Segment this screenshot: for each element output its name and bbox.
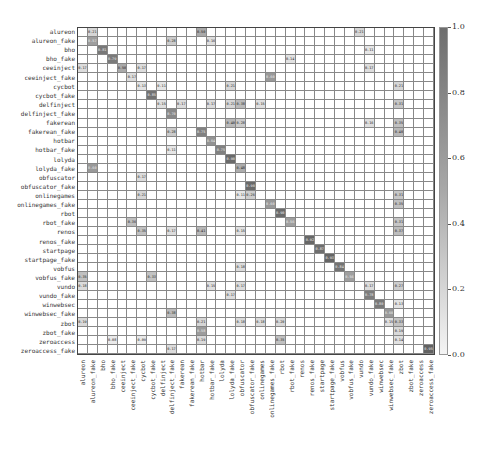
heatmap-cell — [414, 55, 424, 64]
heatmap-cell — [394, 146, 404, 155]
heatmap-cell — [127, 82, 137, 91]
heatmap-cell — [365, 327, 375, 336]
heatmap-cell — [424, 137, 434, 146]
y-tick-label: renos — [57, 227, 75, 236]
y-tick-label: renos_fake — [39, 237, 75, 246]
heatmap-cell — [147, 182, 157, 191]
heatmap-cell — [345, 309, 355, 318]
heatmap-cell — [276, 119, 286, 128]
heatmap-cell — [345, 119, 355, 128]
heatmap-cell — [385, 300, 395, 309]
heatmap-cell — [414, 155, 424, 164]
heatmap-cell — [266, 146, 276, 155]
heatmap-cell — [424, 155, 434, 164]
heatmap-cell — [187, 82, 197, 91]
heatmap-cell — [296, 46, 306, 55]
heatmap-cell — [414, 327, 424, 336]
heatmap-cell — [226, 182, 236, 191]
heatmap-cell — [187, 55, 197, 64]
heatmap-cell — [424, 164, 434, 173]
heatmap-cell — [226, 73, 236, 82]
heatmap-cell — [276, 137, 286, 146]
heatmap-cell — [305, 91, 315, 100]
heatmap-cell — [266, 227, 276, 236]
heatmap-cell — [404, 137, 414, 146]
heatmap-cell — [256, 46, 266, 55]
heatmap-cell — [424, 109, 434, 118]
y-tick-label: lolyda — [53, 155, 75, 164]
heatmap-cell — [118, 254, 128, 263]
heatmap-cell — [246, 254, 256, 263]
heatmap-cell — [345, 182, 355, 191]
heatmap-cell — [246, 345, 256, 354]
heatmap-cell — [187, 37, 197, 46]
heatmap-cell — [127, 55, 137, 64]
heatmap-cell — [424, 91, 434, 100]
heatmap-cell — [296, 55, 306, 64]
heatmap-cell — [167, 155, 177, 164]
heatmap-cell — [286, 146, 296, 155]
heatmap-cell — [296, 173, 306, 182]
heatmap-cell — [98, 282, 108, 291]
heatmap-cell — [197, 345, 207, 354]
heatmap-cell — [207, 146, 217, 155]
heatmap-cell — [197, 146, 207, 155]
heatmap-cell — [197, 218, 207, 227]
y-tick-label: vobfus — [53, 264, 75, 273]
heatmap-cell — [256, 218, 266, 227]
heatmap-cell — [345, 200, 355, 209]
heatmap-cell — [325, 245, 335, 254]
heatmap-cell — [305, 100, 315, 109]
heatmap-cell — [296, 218, 306, 227]
heatmap-cell — [246, 109, 256, 118]
heatmap-cell — [315, 218, 325, 227]
heatmap-cell — [137, 128, 147, 137]
heatmap-cell — [157, 119, 167, 128]
heatmap-cell — [177, 82, 187, 91]
heatmap-cell — [424, 55, 434, 64]
heatmap-cell — [424, 272, 434, 281]
heatmap-cell — [177, 336, 187, 345]
heatmap-cell — [345, 137, 355, 146]
heatmap-cell — [236, 272, 246, 281]
heatmap-cell — [394, 173, 404, 182]
heatmap-cell — [108, 309, 118, 318]
heatmap-cell — [315, 37, 325, 46]
heatmap-cell — [276, 345, 286, 354]
heatmap-cell — [226, 227, 236, 236]
heatmap-cell — [286, 200, 296, 209]
heatmap-cell — [98, 327, 108, 336]
heatmap-cell — [177, 200, 187, 209]
heatmap-cell — [355, 91, 365, 100]
heatmap-cell — [256, 37, 266, 46]
heatmap-cell — [424, 236, 434, 245]
heatmap-cell — [98, 155, 108, 164]
heatmap-cell — [108, 28, 118, 37]
heatmap-cell — [375, 218, 385, 227]
heatmap-cell — [187, 218, 197, 227]
heatmap-cell — [335, 146, 345, 155]
heatmap-cell — [246, 82, 256, 91]
heatmap-cell — [375, 309, 385, 318]
heatmap-cell — [315, 327, 325, 336]
heatmap-cell — [335, 200, 345, 209]
heatmap-cell — [375, 291, 385, 300]
heatmap-cell — [167, 254, 177, 263]
heatmap-cell — [325, 200, 335, 209]
colorbar — [439, 27, 448, 355]
heatmap-cell — [305, 318, 315, 327]
heatmap-cell — [187, 46, 197, 55]
heatmap-cell: 0.81 — [98, 46, 108, 55]
heatmap-cell — [365, 37, 375, 46]
heatmap-cell — [187, 300, 197, 309]
heatmap-cell — [414, 318, 424, 327]
heatmap-cell — [177, 155, 187, 164]
heatmap-cell — [266, 318, 276, 327]
heatmap-cell: 0.41 — [197, 227, 207, 236]
heatmap-cell — [246, 300, 256, 309]
heatmap-cell — [246, 146, 256, 155]
heatmap-cell — [207, 91, 217, 100]
heatmap-cell — [177, 137, 187, 146]
heatmap-cell — [147, 128, 157, 137]
heatmap-cell — [345, 128, 355, 137]
